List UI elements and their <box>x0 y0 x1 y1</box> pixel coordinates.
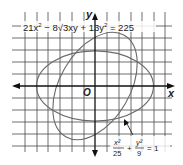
x-axis-arrow-left-icon <box>12 83 20 89</box>
y-axis-arrow-down-icon <box>92 150 98 157</box>
y-axis-arrow-up-icon <box>92 13 98 20</box>
x-axis-label: x <box>167 87 175 99</box>
fraction-num-right: y² <box>135 138 143 147</box>
equals-one: = 1 <box>147 144 159 153</box>
fraction-den-left: 25 <box>113 149 121 158</box>
y-axis-label: y <box>85 8 93 20</box>
pointer-arrow-icon <box>124 119 129 126</box>
conic-rotation-diagram: y x O 21x2 − 8√3xy + 13y2 = 225 x² 25 + … <box>0 0 183 165</box>
fraction-num-left: x² <box>113 138 121 147</box>
plus-sign: + <box>127 144 132 153</box>
grid <box>12 12 172 152</box>
origin-label: O <box>83 87 91 98</box>
fraction-den-right: 9 <box>137 149 141 158</box>
